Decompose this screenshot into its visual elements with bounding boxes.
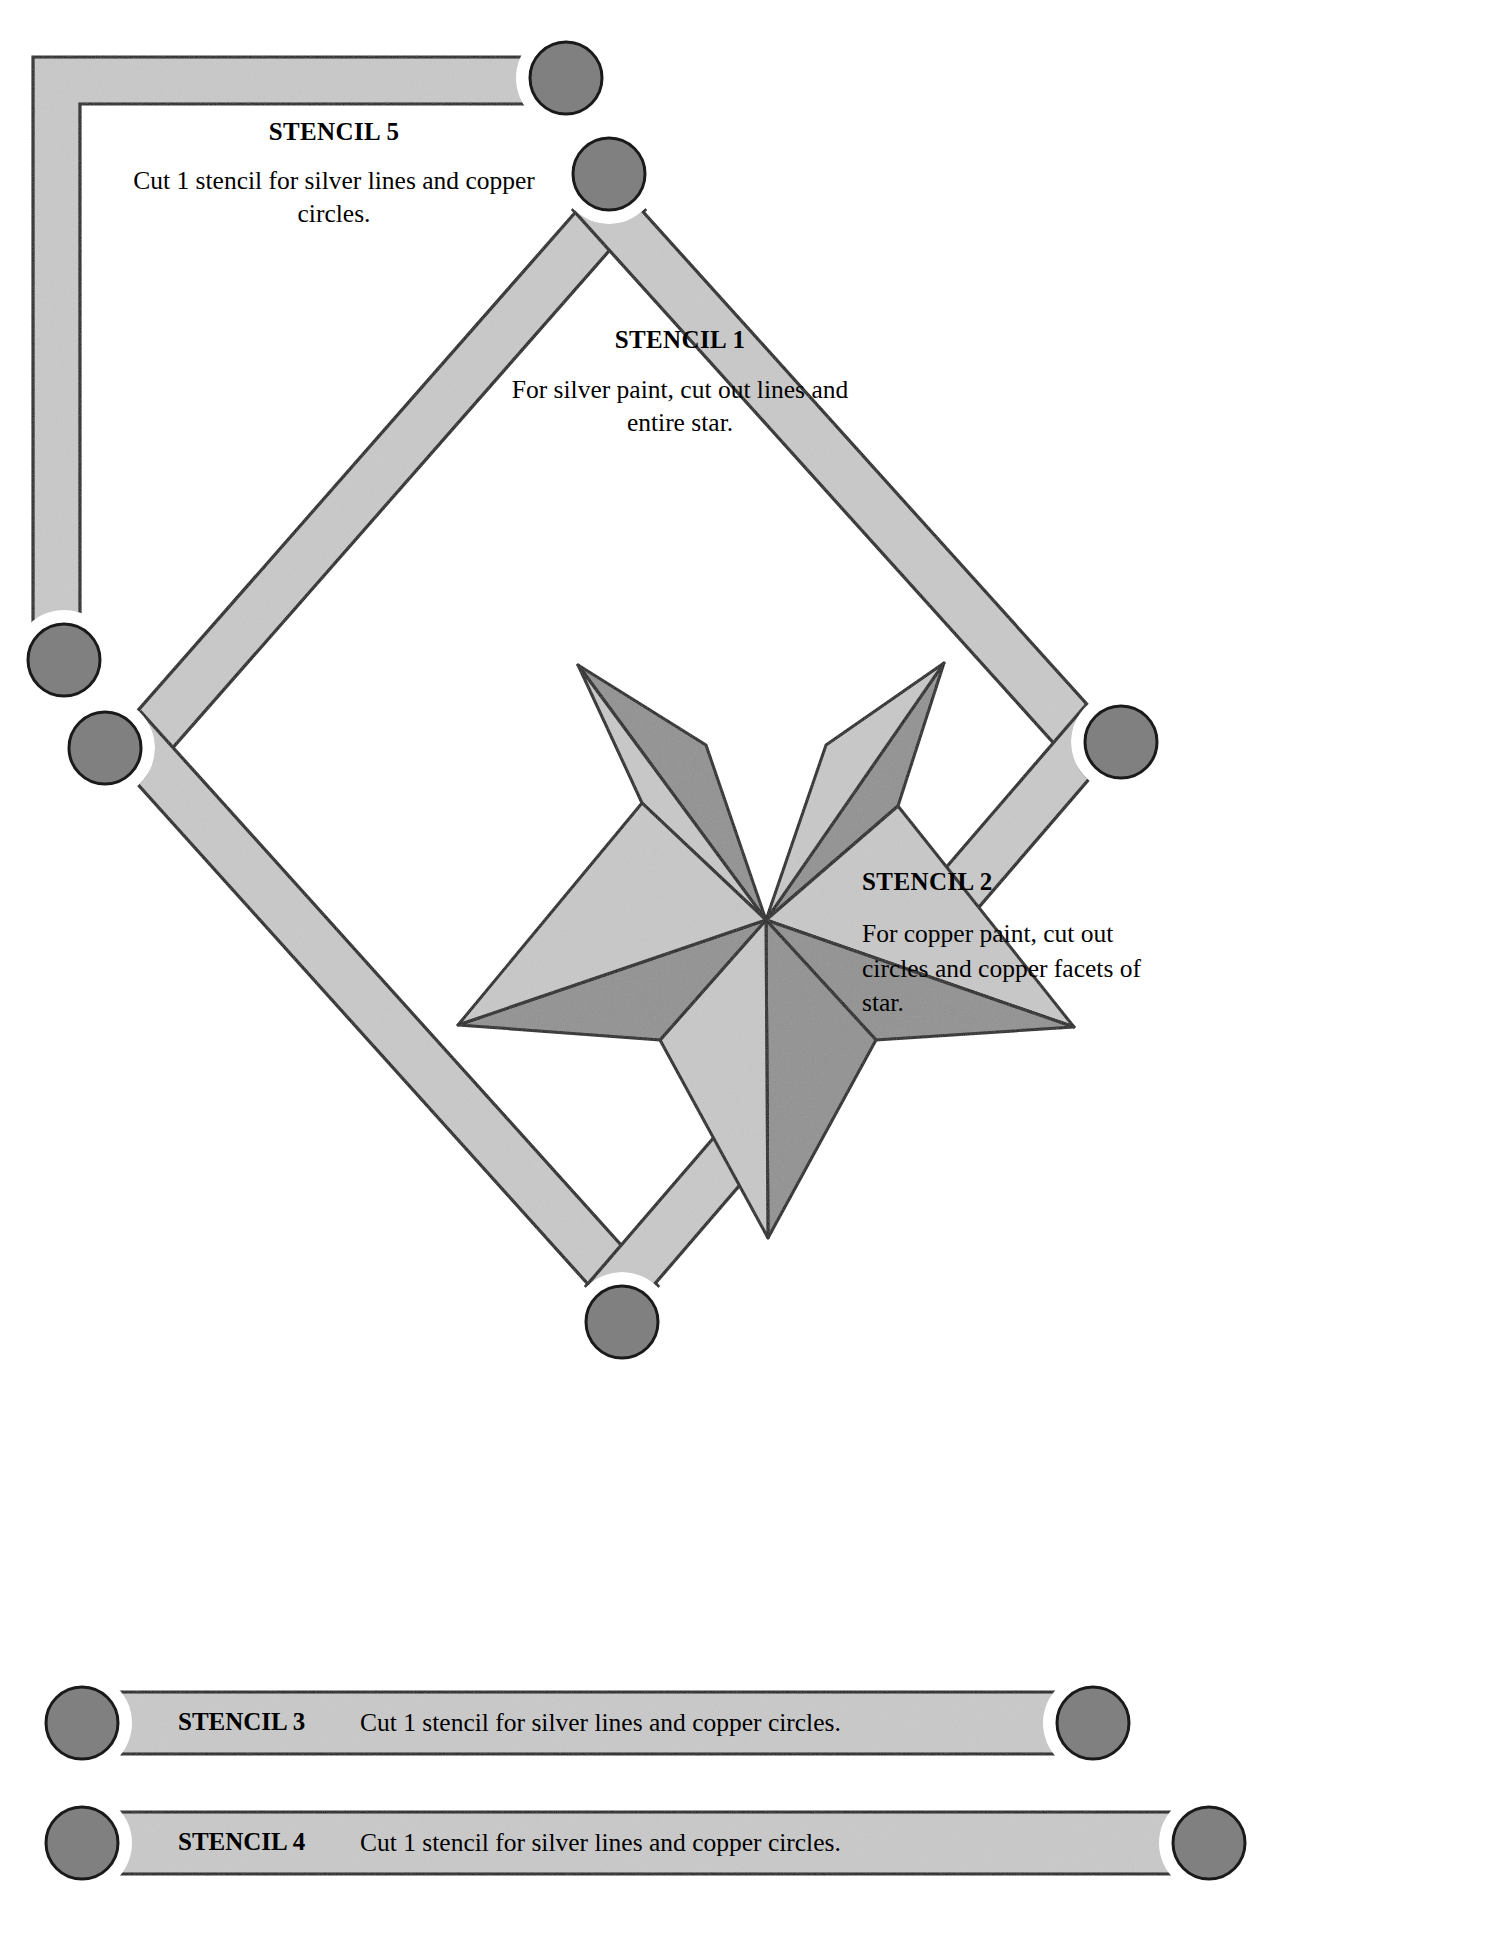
caption-stencil2: STENCIL 2 For copper paint, cut out circ…	[862, 868, 1162, 1021]
stencil-diagram-artwork	[0, 0, 1512, 1939]
caption-stencil1-heading: STENCIL 1	[480, 326, 880, 354]
caption-stencil5-heading: STENCIL 5	[104, 118, 564, 146]
caption-stencil1: STENCIL 1 For silver paint, cut out line…	[480, 326, 880, 439]
bar-text-stencil3: Cut 1 stencil for silver lines and coppe…	[360, 1708, 841, 1738]
caption-stencil1-body: For silver paint, cut out lines and enti…	[480, 374, 880, 439]
copper-circle	[46, 1807, 118, 1879]
copper-circle	[1057, 1687, 1129, 1759]
caption-stencil2-body: For copper paint, cut out circles and co…	[862, 917, 1162, 1021]
copper-circle	[1085, 706, 1157, 778]
caption-stencil5-body: Cut 1 stencil for silver lines and coppe…	[104, 165, 564, 230]
copper-circle	[586, 1286, 658, 1358]
copper-circle	[1173, 1807, 1245, 1879]
caption-stencil2-heading: STENCIL 2	[862, 868, 1162, 896]
copper-circle	[530, 42, 602, 114]
copper-circle	[573, 138, 645, 210]
strip-diamond-upper-right	[573, 174, 1121, 778]
strip-diamond-upper-left	[105, 174, 645, 784]
diagram-page: STENCIL 5 Cut 1 stencil for silver lines…	[0, 0, 1512, 1939]
bar-label-stencil3: STENCIL 3	[178, 1708, 305, 1736]
copper-circle	[69, 712, 141, 784]
copper-circle	[46, 1687, 118, 1759]
caption-stencil5: STENCIL 5 Cut 1 stencil for silver lines…	[104, 118, 564, 230]
bar-label-stencil4: STENCIL 4	[178, 1828, 305, 1856]
bar-text-stencil4: Cut 1 stencil for silver lines and coppe…	[360, 1828, 841, 1858]
copper-circle	[28, 624, 100, 696]
